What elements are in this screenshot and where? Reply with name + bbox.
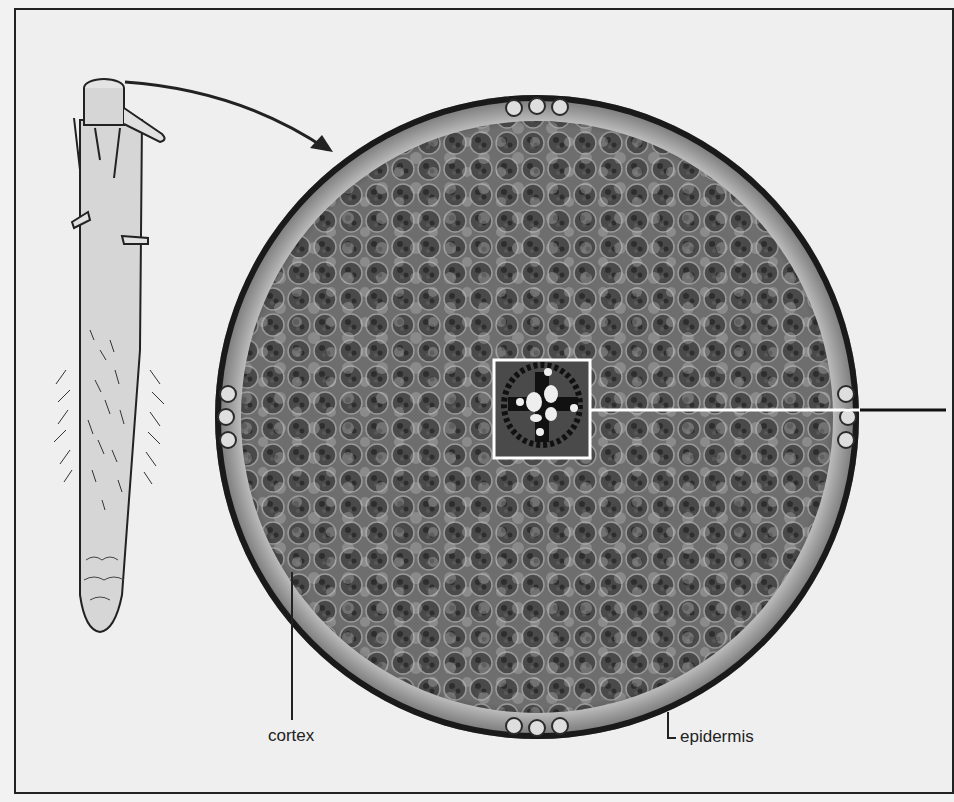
epidermis-leader xyxy=(668,712,676,738)
cortex-label: cortex xyxy=(268,726,314,746)
arrowhead-icon xyxy=(310,135,333,152)
epidermis-label: epidermis xyxy=(680,727,754,747)
root-illustration xyxy=(72,79,165,632)
stele-region xyxy=(494,360,590,458)
